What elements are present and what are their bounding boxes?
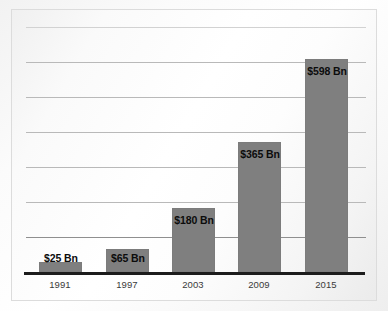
- bar-value-label-1997: $65 Bn: [99, 252, 157, 264]
- x-axis-line: [24, 272, 365, 275]
- x-tick-label-1997: 1997: [99, 279, 155, 290]
- bar-chart-figure: $25 Bn $65 Bn $180 Bn $365 Bn $598 Bn 19…: [0, 0, 388, 311]
- bar-2015[interactable]: [305, 59, 348, 272]
- x-tick-label-2015: 2015: [298, 279, 354, 290]
- bar-value-label-1991: $25 Bn: [32, 252, 90, 264]
- x-tick-label-2003: 2003: [165, 279, 221, 290]
- gridline-612: [26, 27, 366, 28]
- x-tick-label-2009: 2009: [231, 279, 287, 290]
- bar-value-label-2015: $598 Bn: [297, 65, 357, 77]
- bar-2009[interactable]: [238, 142, 281, 272]
- bar-value-label-2009: $365 Bn: [230, 148, 290, 160]
- bar-value-label-2003: $180 Bn: [164, 214, 224, 226]
- x-tick-label-1991: 1991: [32, 279, 88, 290]
